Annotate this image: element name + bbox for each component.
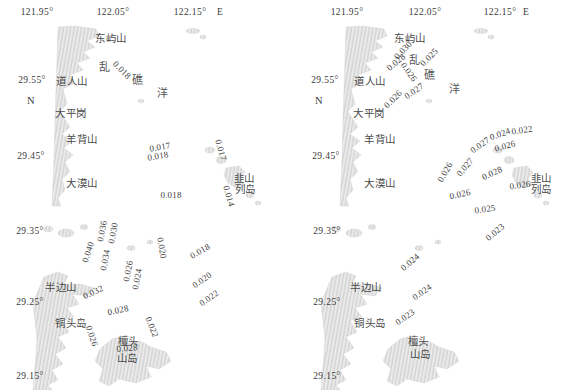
place-name-label: 半边山 [45, 279, 77, 294]
longitude-tick-label: 121.95° [331, 7, 364, 17]
data-value-label: 0.018 [160, 190, 181, 200]
place-name-label: 列岛 [235, 181, 256, 196]
place-name-label: 大平岗 [55, 105, 87, 120]
longitude-tick-label: 122.05° [97, 7, 130, 17]
longitude-tick-label: 122.15° [174, 7, 207, 17]
place-name-label: 大漠山 [364, 175, 396, 190]
latitude-tick-label: 29.35° [313, 226, 341, 236]
place-name-label: 山岛 [410, 346, 431, 361]
longitude-axis-suffix: E [523, 7, 529, 17]
latitude-tick-label: 29.55° [18, 75, 46, 85]
map-figure: 121.95°122.05°122.15°E29.55°29.45°29.35°… [0, 0, 561, 390]
place-name-label: 大漠山 [66, 175, 98, 190]
latitude-tick-label: 29.15° [16, 371, 44, 381]
place-name-label: 铜头岛 [354, 315, 386, 330]
latitude-tick-label: 29.25° [313, 297, 341, 307]
data-value-label: 0.028 [116, 342, 138, 354]
latitude-tick-label: 29.45° [312, 151, 340, 161]
sea-name-char: 乱 [99, 58, 110, 74]
place-name-label: 道人山 [56, 73, 88, 88]
latitude-tick-label: 29.35° [16, 226, 44, 236]
sea-name-char: 洋 [157, 84, 168, 100]
sea-name-char: 礁 [424, 66, 435, 82]
latitude-tick-label: 29.45° [17, 151, 45, 161]
place-name-label: 羊背山 [364, 131, 396, 146]
north-indicator: N [315, 95, 323, 106]
place-name-label: 道人山 [354, 73, 386, 88]
latitude-tick-label: 29.55° [311, 75, 339, 85]
latitude-tick-label: 29.25° [16, 297, 44, 307]
longitude-tick-label: 121.95° [21, 7, 54, 17]
longitude-tick-label: 122.15° [484, 7, 517, 17]
place-name-label: 东屿山 [95, 30, 127, 45]
place-name-label: 列岛 [531, 181, 552, 196]
north-indicator: N [27, 95, 35, 106]
longitude-tick-label: 122.05° [409, 7, 442, 17]
place-name-label: 羊背山 [66, 131, 98, 146]
latitude-tick-label: 29.15° [313, 371, 341, 381]
place-name-label: 半边山 [350, 279, 382, 294]
place-name-label: 大平岗 [353, 105, 385, 120]
place-name-label: 铜头岛 [55, 315, 87, 330]
sea-name-char: 洋 [449, 80, 460, 96]
coastline-svg [0, 0, 561, 390]
longitude-axis-suffix: E [217, 7, 223, 17]
